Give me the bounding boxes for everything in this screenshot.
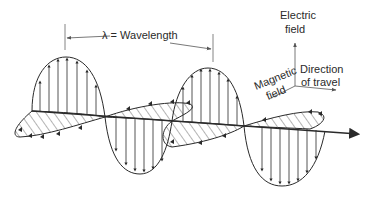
direction-label-1: Direction: [300, 63, 343, 75]
electric-field-label-2: field: [285, 23, 305, 35]
direction-label-2: of travel: [301, 76, 340, 88]
wavelength-label: λ = Wavelength: [102, 29, 178, 41]
em-wave-diagram: λ = Wavelength: [0, 0, 368, 197]
axes-legend: Electric field Direction of travel Magne…: [252, 9, 343, 102]
electric-field-label-1: Electric: [280, 9, 317, 21]
magnetic-field-wave: [15, 99, 324, 147]
wavelength-indicator: λ = Wavelength: [65, 24, 213, 62]
